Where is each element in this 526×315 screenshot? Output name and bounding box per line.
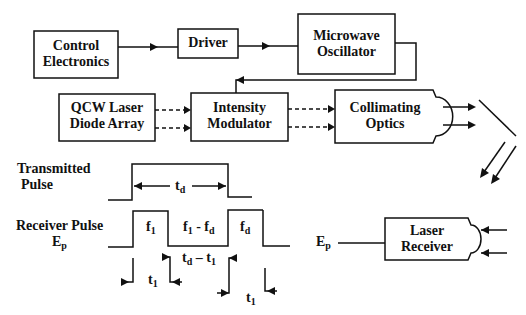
f1fd-sub2: d	[209, 225, 215, 236]
f1-label: f1	[146, 219, 156, 239]
microwave-oscillator-line1: Microwave	[298, 28, 395, 44]
qcw-laser-label: QCW Laser Diode Array	[59, 100, 155, 132]
laser-receiver-label: Laser Receiver	[385, 223, 469, 255]
f1-sub: 1	[151, 225, 156, 236]
qcw-laser-line1: QCW Laser	[59, 100, 155, 116]
driver-label: Driver	[178, 35, 238, 51]
td-minus-t1-label: td – t1	[182, 250, 216, 270]
collimating-optics-line2: Optics	[335, 116, 435, 132]
transmitted-pulse-label: Transmitted Pulse	[17, 161, 91, 193]
tdt1-mid: – t	[192, 250, 211, 265]
intensity-modulator-line1: Intensity	[191, 100, 288, 116]
receiver-ep-main: E	[52, 234, 61, 249]
td-label: td	[175, 178, 185, 198]
ep-main: E	[316, 234, 325, 249]
laser-system-diagram: Control Electronics Driver Microwave Osc…	[0, 0, 526, 315]
laser-receiver-line2: Receiver	[385, 239, 469, 255]
microwave-oscillator-label: Microwave Oscillator	[298, 28, 395, 60]
collimating-optics-line1: Collimating	[335, 100, 435, 116]
qcw-laser-line2: Diode Array	[59, 116, 155, 132]
control-electronics-line2: Electronics	[34, 54, 118, 70]
collimating-optics-label: Collimating Optics	[335, 100, 435, 132]
t1-label-left: t1	[148, 272, 158, 292]
intensity-modulator-label: Intensity Modulator	[191, 100, 288, 132]
laser-receiver-line1: Laser	[385, 223, 469, 239]
receiver-ep-sub: p	[61, 240, 67, 251]
ep-sub: p	[325, 240, 331, 251]
microwave-oscillator-line2: Oscillator	[298, 44, 395, 60]
fd-sub: d	[245, 225, 251, 236]
f1-minus-fd-label: f1 - fd	[183, 219, 215, 239]
receiver-ep-input-label: Ep	[316, 234, 331, 254]
fd-label: fd	[240, 219, 250, 239]
t1b-sub: 1	[251, 296, 256, 307]
f1fd-mid: - f	[193, 219, 209, 234]
t1a-sub: 1	[153, 278, 158, 289]
receiver-pulse-label: Receiver Pulse Ep	[16, 218, 103, 254]
receiver-line1: Receiver Pulse	[16, 218, 103, 234]
intensity-modulator-line2: Modulator	[191, 116, 288, 132]
t1-label-right: t1	[246, 290, 256, 310]
control-electronics-line1: Control	[34, 38, 118, 54]
transmitted-line2: Pulse	[17, 177, 91, 193]
td-sub: d	[180, 184, 186, 195]
transmitted-line1: Transmitted	[17, 161, 91, 177]
tdt1-sub2: 1	[211, 256, 216, 267]
control-electronics-label: Control Electronics	[34, 38, 118, 70]
